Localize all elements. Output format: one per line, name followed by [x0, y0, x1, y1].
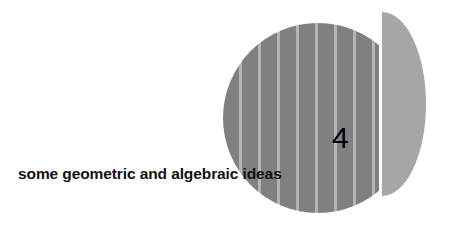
chapter-number: 4: [332, 123, 349, 153]
striped-disc-clip: [223, 23, 379, 213]
light-half-disc-shape: [382, 12, 426, 196]
striped-disc-shape: [223, 23, 379, 213]
chapter-opener-page: 4 some geometric and algebraic ideas: [0, 0, 459, 237]
chapter-title: some geometric and algebraic ideas: [18, 165, 282, 183]
